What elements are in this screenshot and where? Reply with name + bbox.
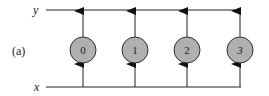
node-0: 0 [70,11,96,87]
panel-label: (a) [12,44,25,58]
node-2: 2 [174,11,200,87]
y-label: y [32,3,39,17]
diagram-canvas: y x (a) 0123 [0,0,269,96]
x-label: x [33,80,40,94]
node-label: 2 [184,44,190,56]
node-label: 1 [132,44,138,56]
node-3: 3 [227,11,253,87]
node-label: 3 [236,44,243,56]
node-1: 1 [122,11,148,87]
diagram: y x (a) 0123 [0,0,269,96]
node-label: 0 [80,44,86,56]
